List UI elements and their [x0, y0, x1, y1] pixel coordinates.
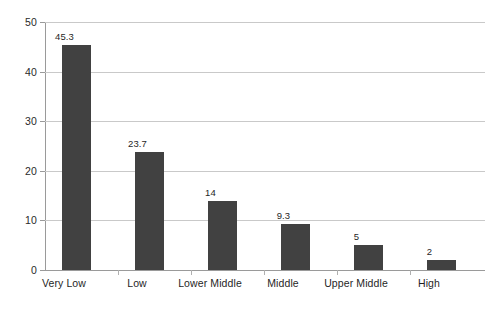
- category-label-upper-middle: Upper Middle: [319, 277, 393, 289]
- category-label-low: Low: [100, 277, 174, 289]
- x-tick-mark: [118, 270, 119, 275]
- category-label-very-low: Very Low: [27, 277, 101, 289]
- x-tick-mark: [410, 270, 411, 275]
- y-axis-tick-labels: 50 40 30 20 10 0: [0, 0, 37, 312]
- y-tick-label: 10: [5, 215, 37, 226]
- bar-value-label: 2: [407, 247, 452, 257]
- bar-lower-middle: [208, 201, 237, 270]
- bar-chart: 50 40 30 20 10 0 45.3 23.7 14: [0, 0, 504, 312]
- bar-value-label: 9.3: [261, 211, 306, 221]
- bar-value-label: 14: [188, 188, 233, 198]
- bar-value-label: 45.3: [42, 32, 87, 42]
- bar-value-label: 23.7: [115, 139, 160, 149]
- bar-very-low: [62, 45, 91, 270]
- category-label-lower-middle: Lower Middle: [173, 277, 247, 289]
- y-tick-mark: [40, 270, 45, 271]
- bar-value-label: 5: [334, 232, 379, 242]
- y-tick-label: 50: [5, 17, 37, 28]
- bar-upper-middle: [354, 245, 383, 270]
- bar-high: [427, 260, 456, 270]
- bar-middle: [281, 224, 310, 270]
- x-tick-mark: [264, 270, 265, 275]
- bars-layer: [45, 22, 485, 270]
- x-axis-baseline: [45, 270, 485, 271]
- x-tick-mark: [337, 270, 338, 275]
- y-tick-label: 40: [5, 67, 37, 78]
- y-tick-label: 20: [5, 166, 37, 177]
- y-tick-label: 30: [5, 116, 37, 127]
- category-label-high: High: [392, 277, 466, 289]
- y-tick-label: 0: [5, 265, 37, 276]
- category-label-middle: Middle: [246, 277, 320, 289]
- bar-low: [135, 152, 164, 270]
- x-tick-mark: [191, 270, 192, 275]
